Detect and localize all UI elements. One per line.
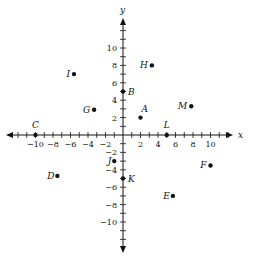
y-tick-label: 10 xyxy=(107,44,117,53)
y-axis-up-arrow-icon xyxy=(120,18,126,25)
point-label: K xyxy=(127,174,136,184)
point-label: L xyxy=(163,120,170,130)
x-tick-label: 6 xyxy=(173,140,178,149)
point-dot-icon xyxy=(121,89,125,93)
point-dot-icon xyxy=(33,133,37,137)
point-label: B xyxy=(127,87,135,97)
point-dot-icon xyxy=(208,163,212,167)
point-label: G xyxy=(83,105,90,115)
x-tick-label: 2 xyxy=(138,140,143,149)
y-tick-label: 2 xyxy=(112,114,117,123)
y-tick-label: 6 xyxy=(112,79,117,88)
point-f: F xyxy=(199,160,212,170)
x-axis-label: x xyxy=(238,130,243,140)
point-dot-icon xyxy=(189,104,193,108)
point-label: J xyxy=(106,156,113,166)
y-tick-label: −8 xyxy=(105,201,117,210)
point-dot-icon xyxy=(55,174,59,178)
point-label: A xyxy=(141,104,149,114)
point-h: H xyxy=(139,60,154,70)
x-axis-right-arrow-icon xyxy=(226,132,233,138)
point-d: D xyxy=(46,171,59,181)
y-tick-label: 4 xyxy=(112,96,117,105)
y-tick-label: −10 xyxy=(100,218,117,227)
axes: xy xyxy=(6,5,243,253)
y-axis-down-arrow-icon xyxy=(120,246,126,253)
y-tick-label: −6 xyxy=(105,183,117,192)
x-tick-label: −6 xyxy=(65,140,77,149)
point-dot-icon xyxy=(92,108,96,112)
point-dot-icon xyxy=(150,63,154,67)
point-dot-icon xyxy=(121,176,125,180)
y-tick-label: −4 xyxy=(105,166,117,175)
point-label: I xyxy=(65,69,70,79)
point-label: H xyxy=(139,60,148,70)
point-label: E xyxy=(162,191,170,201)
x-tick-label: −10 xyxy=(27,140,44,149)
point-a: A xyxy=(138,104,148,120)
x-tick-label: 10 xyxy=(205,140,215,149)
x-tick-label: 4 xyxy=(155,140,160,149)
point-dot-icon xyxy=(72,72,76,76)
point-m: M xyxy=(177,101,193,111)
x-tick-label: 8 xyxy=(190,140,195,149)
point-e: E xyxy=(162,191,175,201)
point-dot-icon xyxy=(138,115,142,119)
x-tick-label: −8 xyxy=(47,140,59,149)
point-dot-icon xyxy=(112,159,116,163)
plotted-points: ABCDEFGHIJKLM xyxy=(32,60,213,201)
point-g: G xyxy=(83,105,96,115)
point-i: I xyxy=(65,69,76,79)
x-axis-left-arrow-icon xyxy=(6,132,13,138)
point-label: F xyxy=(199,160,207,170)
y-axis-label: y xyxy=(119,5,126,15)
point-label: C xyxy=(32,120,39,130)
point-dot-icon xyxy=(165,133,169,137)
point-label: M xyxy=(177,101,188,111)
x-tick-label: −4 xyxy=(82,140,94,149)
y-tick-label: 8 xyxy=(112,61,117,70)
point-dot-icon xyxy=(171,194,175,198)
coordinate-plane: xy −10−8−6−4−2246810108642−2−4−6−8−10 AB… xyxy=(0,0,270,275)
point-label: D xyxy=(46,171,54,181)
point-j: J xyxy=(106,156,117,166)
